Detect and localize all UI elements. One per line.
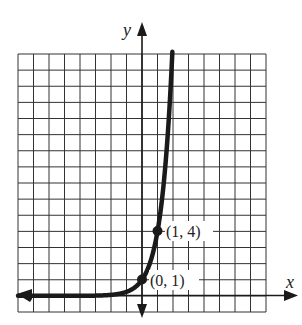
exponential-graph: (0, 1) (1, 4) y x bbox=[0, 0, 302, 325]
point-label-0-1: (0, 1) bbox=[150, 272, 185, 290]
y-axis-arrow-up-icon bbox=[137, 22, 147, 36]
x-axis-label: x bbox=[285, 272, 294, 292]
point-0-1 bbox=[137, 275, 147, 285]
y-axis-arrow-down-icon bbox=[137, 304, 147, 318]
point-label-1-4: (1, 4) bbox=[166, 223, 201, 241]
point-1-4 bbox=[153, 226, 163, 236]
y-axis-label: y bbox=[121, 20, 131, 40]
